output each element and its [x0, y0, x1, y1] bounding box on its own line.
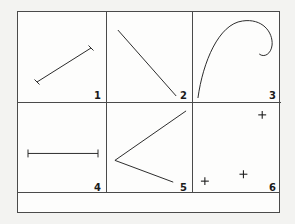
panel-4-artwork [18, 103, 106, 194]
panel-1-artwork [18, 12, 106, 102]
plus-marker-3 [201, 177, 209, 185]
caption-strip [18, 192, 279, 212]
panel-6-artwork [193, 103, 281, 194]
panel-2-artwork [107, 12, 192, 102]
panel-1[interactable]: 1 [18, 12, 106, 102]
panel-grid: 1 2 3 4 [18, 12, 279, 194]
panel-3-artwork [193, 12, 281, 102]
panel-4[interactable]: 4 [18, 102, 106, 194]
panel-3-number: 3 [269, 90, 276, 101]
panel-6[interactable]: 6 [192, 102, 281, 194]
panel-3[interactable]: 3 [192, 12, 281, 102]
panel-2-number: 2 [180, 90, 187, 101]
panel-5-artwork [107, 103, 192, 194]
panel-1-number: 1 [94, 90, 101, 101]
plus-marker-2 [239, 170, 247, 178]
panel-2[interactable]: 2 [106, 12, 192, 102]
panel-5[interactable]: 5 [106, 102, 192, 194]
plus-marker-1 [258, 111, 266, 119]
figure-plate: 1 2 3 4 [17, 11, 280, 213]
